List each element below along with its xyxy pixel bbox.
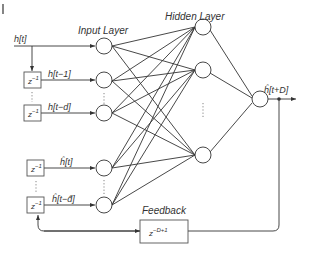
input-node-1 [96, 38, 112, 54]
nn-diagram: z−1 z−1 z−1 z−1 z−D+1 Input Layer Hidden… [0, 0, 314, 254]
input-node-3 [96, 105, 112, 121]
input-layer-label: Input Layer [78, 25, 129, 36]
feedback-return-line [188, 99, 279, 231]
signal-ht-1: h[t−1] [48, 69, 71, 79]
hidden-node-2 [195, 62, 211, 78]
signal-hhat-t: ĥ[t] [60, 156, 73, 167]
hidden-output-connections [210, 30, 252, 152]
feedback-label: Feedback [142, 205, 187, 216]
hidden-node-3 [195, 147, 211, 163]
input-node-2 [96, 72, 112, 88]
signal-output: ĥ[t+D] [264, 84, 289, 95]
input-node-4 [96, 160, 112, 176]
hidden-layer-label: Hidden Layer [165, 11, 225, 22]
signal-ht: h[t] [14, 34, 27, 44]
input-node-5 [96, 197, 112, 213]
signal-ht-d: h[t−d] [48, 102, 71, 112]
hidden-nodes [195, 19, 211, 163]
signal-hhat-t-d: ĥ[t−d̂] [52, 193, 75, 204]
input-hidden-connections [112, 27, 195, 205]
junction-dot [277, 97, 281, 101]
feedback-to-delay-line [38, 215, 140, 231]
